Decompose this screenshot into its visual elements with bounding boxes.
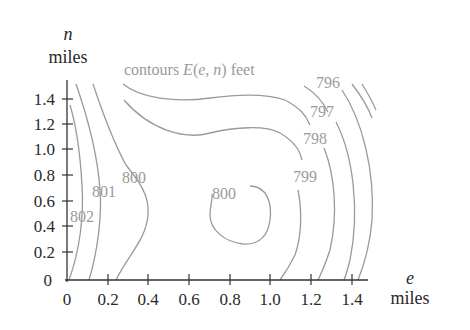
contour-798-lower bbox=[318, 148, 335, 280]
y-tick-label: 0.8 bbox=[34, 166, 55, 185]
contour-796 bbox=[342, 90, 372, 280]
x-tick-labels: 0 0.2 0.4 0.6 0.8 1.0 1.2 1.4 bbox=[63, 290, 363, 309]
y-tick-label: 0.6 bbox=[34, 192, 55, 211]
contour-label-799: 799 bbox=[293, 168, 317, 185]
y-tick-labels: 1.4 1.2 1.0 0.8 0.6 0.4 0.2 0 bbox=[34, 90, 56, 290]
x-tick-label: 1.2 bbox=[300, 290, 321, 309]
contour-label-800-left: 800 bbox=[122, 169, 146, 186]
y-tick-label: 0 bbox=[44, 271, 53, 290]
x-axis-variable: e bbox=[406, 268, 414, 288]
y-tick-label: 1.0 bbox=[34, 140, 55, 159]
x-tick-label: 0 bbox=[63, 290, 72, 309]
contour-outer-2 bbox=[362, 84, 376, 110]
contour-label-798: 798 bbox=[303, 130, 327, 147]
y-axis-unit: miles bbox=[49, 47, 88, 67]
contour-label-796: 796 bbox=[316, 74, 340, 91]
contour-label-802: 802 bbox=[70, 208, 94, 225]
x-tick-label: 0.2 bbox=[97, 290, 118, 309]
contour-plot: 1.4 1.2 1.0 0.8 0.6 0.4 0.2 0 0 0.2 0.4 … bbox=[0, 0, 470, 330]
contour-797-lower bbox=[336, 122, 355, 280]
y-tick-label: 1.4 bbox=[34, 90, 56, 109]
x-tick-label: 0.4 bbox=[137, 290, 159, 309]
y-axis-variable: n bbox=[64, 24, 73, 44]
contour-label-800-center: 800 bbox=[212, 185, 236, 202]
x-axis-unit: miles bbox=[391, 288, 430, 308]
contour-798 bbox=[123, 84, 310, 125]
x-tick-label: 1.0 bbox=[259, 290, 280, 309]
x-tick-label: 1.4 bbox=[341, 290, 363, 309]
contour-799 bbox=[124, 100, 302, 160]
chart-title: contours E(e, n) feet bbox=[124, 61, 255, 79]
x-tick-label: 0.8 bbox=[219, 290, 240, 309]
y-tick-label: 1.2 bbox=[34, 115, 55, 134]
contour-801 bbox=[76, 84, 101, 280]
contour-802 bbox=[69, 105, 82, 280]
x-tick-label: 0.6 bbox=[178, 290, 199, 309]
contour-799-lower bbox=[280, 190, 301, 280]
y-tick-label: 0.4 bbox=[34, 217, 56, 236]
contour-label-797: 797 bbox=[310, 103, 334, 120]
y-tick-label: 0.2 bbox=[34, 243, 55, 262]
contour-label-801: 801 bbox=[92, 183, 116, 200]
